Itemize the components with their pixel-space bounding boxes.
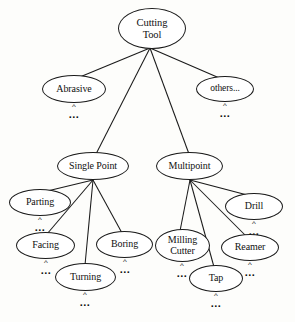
node-label-single-point: Single Point bbox=[69, 161, 117, 172]
node-label-abrasive: Abrasive bbox=[56, 84, 91, 95]
node-others[interactable]: others... bbox=[196, 76, 254, 102]
node-drill[interactable]: Drill bbox=[225, 193, 283, 220]
ellipsis-marker-turning: ^... bbox=[74, 292, 96, 307]
node-label-drill: Drill bbox=[245, 201, 263, 212]
ellipsis-dots-tap: ... bbox=[205, 299, 227, 308]
cutting-tool-tree-diagram: Cutting ToolAbrasive^...others...^...Sin… bbox=[0, 0, 295, 322]
node-parting[interactable]: Parting bbox=[9, 189, 71, 216]
node-facing[interactable]: Facing bbox=[16, 232, 75, 259]
node-label-facing: Facing bbox=[32, 240, 59, 251]
edge-cutting-tool-to-others bbox=[150, 48, 224, 80]
ellipsis-marker-boring: ^... bbox=[114, 259, 136, 274]
edge-cutting-tool-to-multipoint bbox=[150, 48, 189, 154]
node-multipoint[interactable]: Multipoint bbox=[156, 152, 223, 180]
edge-single-point-to-turning bbox=[85, 180, 93, 265]
ellipsis-marker-facing: ^... bbox=[35, 260, 57, 275]
node-label-cutting-tool: Cutting Tool bbox=[137, 17, 168, 39]
ellipsis-dots-boring: ... bbox=[114, 265, 136, 274]
edge-cutting-tool-to-single-point bbox=[96, 48, 150, 154]
node-label-boring: Boring bbox=[111, 239, 138, 250]
node-abrasive[interactable]: Abrasive bbox=[42, 75, 106, 103]
node-label-reamer: Reamer bbox=[235, 242, 266, 253]
node-label-multipoint: Multipoint bbox=[169, 161, 211, 172]
node-label-tap: Tap bbox=[209, 273, 224, 284]
node-label-turning: Turning bbox=[70, 272, 101, 283]
edge-cutting-tool-to-abrasive bbox=[75, 48, 150, 79]
edge-multipoint-to-milling-cutter bbox=[180, 180, 190, 231]
ellipsis-marker-parting: ^... bbox=[29, 217, 51, 232]
node-turning[interactable]: Turning bbox=[55, 263, 116, 291]
ellipsis-marker-others: ^... bbox=[214, 103, 236, 118]
node-milling-cutter[interactable]: Milling Cutter bbox=[155, 229, 210, 262]
ellipsis-dots-others: ... bbox=[214, 109, 236, 118]
node-cutting-tool[interactable]: Cutting Tool bbox=[118, 8, 186, 49]
ellipsis-dots-facing: ... bbox=[35, 266, 57, 275]
ellipsis-marker-abrasive: ^... bbox=[63, 104, 85, 119]
ellipsis-dots-turning: ... bbox=[74, 298, 96, 307]
node-label-parting: Parting bbox=[26, 197, 54, 208]
ellipsis-marker-tap: ^... bbox=[205, 293, 227, 308]
node-label-milling-cutter: Milling Cutter bbox=[168, 235, 197, 256]
node-label-others: others... bbox=[210, 84, 239, 94]
node-boring[interactable]: Boring bbox=[96, 231, 153, 258]
ellipsis-dots-parting: ... bbox=[29, 223, 51, 232]
node-tap[interactable]: Tap bbox=[189, 265, 243, 292]
edge-single-point-to-boring bbox=[93, 180, 122, 233]
node-reamer[interactable]: Reamer bbox=[221, 234, 279, 261]
ellipsis-dots-abrasive: ... bbox=[63, 110, 85, 119]
node-single-point[interactable]: Single Point bbox=[57, 152, 129, 180]
